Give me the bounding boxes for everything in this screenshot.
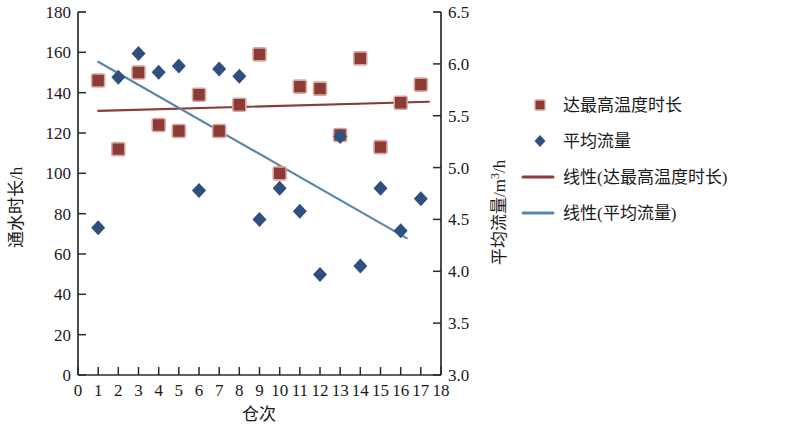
data-point-square [273,167,286,180]
data-point-square [314,82,327,95]
x-tick-label: 8 [235,381,244,400]
legend-label: 线性(平均流量) [563,204,676,223]
data-point-group [91,46,428,282]
y2-tick-label: 5.5 [448,107,469,126]
trendline [98,62,407,238]
legend-label: 线性(达最高温度时长) [563,168,727,187]
x-tick-label: 7 [215,381,224,400]
data-point-square [92,74,105,87]
left-axis [78,12,86,375]
y-tick-label: 100 [46,164,72,183]
x-tick-label: 2 [114,381,123,400]
x-tick-label: 12 [312,381,329,400]
x-tick-label: 13 [332,381,349,400]
data-point-square [233,98,246,111]
legend-label: 平均流量 [563,132,631,151]
y-tick-label: 40 [54,285,71,304]
y-tick-label: 180 [46,3,72,22]
data-point-square [213,124,226,137]
y-tick-label: 120 [46,124,72,143]
x-tick-label: 18 [433,381,450,400]
data-point-diamond [132,46,146,61]
data-point-square [132,66,145,79]
x-tick-label: 16 [392,381,409,400]
left-axis-tick-labels: 020406080100120140160180 [46,3,72,385]
x-tick-label: 17 [412,381,430,400]
data-point-diamond [293,204,307,219]
y-tick-label: 80 [54,205,71,224]
data-point-diamond [253,212,267,227]
data-point-square [374,141,387,154]
x-tick-label: 3 [134,381,143,400]
data-point-diamond [313,267,327,282]
x-axis-title: 仓次 [242,405,276,424]
data-point-square [112,143,125,156]
svg-text:平均流量/m3/h: 平均流量/m3/h [488,159,509,265]
right-axis [433,12,441,375]
x-tick-label: 5 [175,381,184,400]
y2-axis-title: 平均流量/m3/h [488,159,509,265]
legend-label: 达最高温度时长 [563,96,682,115]
y-tick-label: 20 [54,326,71,345]
chart-legend: 达最高温度时长平均流量线性(达最高温度时长)线性(平均流量) [523,96,727,223]
trendline [98,102,429,111]
x-axis-tick-labels: 0123456789101112131415161718 [74,381,450,400]
chart-figure: 020406080100120140160180 3.03.54.04.55.0… [0,0,797,433]
data-point-square [354,52,367,65]
x-axis-ticks [78,367,441,375]
right-axis-tick-labels: 3.03.54.04.55.05.56.06.5 [448,3,469,385]
y2-tick-label: 4.0 [448,262,469,281]
data-point-diamond [353,259,367,274]
x-tick-label: 9 [255,381,264,400]
x-tick-label: 11 [292,381,308,400]
data-point-diamond [152,65,166,80]
data-point-diamond [374,181,388,196]
y2-tick-label: 6.5 [448,3,469,22]
right-axis-ticks [433,64,441,323]
y-tick-label: 60 [54,245,71,264]
y2-tick-label: 4.5 [448,210,469,229]
y-tick-label: 0 [63,366,72,385]
data-point-square [152,118,165,131]
data-point-diamond [212,62,226,77]
data-point-square [394,96,407,109]
data-point-diamond [394,223,408,238]
data-point-diamond [192,183,206,198]
data-point-square [293,80,306,93]
x-tick-label: 6 [195,381,204,400]
data-point-diamond [232,69,246,84]
data-point-diamond [172,58,186,73]
legend-marker-square [535,100,545,110]
y2-tick-label: 5.0 [448,159,469,178]
left-axis-ticks [78,52,86,375]
x-tick-label: 15 [372,381,389,400]
x-tick-label: 4 [154,381,163,400]
y-tick-label: 160 [46,43,72,62]
scatter-chart: 020406080100120140160180 3.03.54.04.55.0… [0,0,797,433]
y2-tick-label: 3.0 [448,366,469,385]
legend-marker-diamond [535,135,546,147]
x-tick-label: 0 [74,381,83,400]
x-tick-label: 1 [94,381,103,400]
data-point-diamond [111,70,125,85]
data-point-square [172,124,185,137]
y-tick-label: 140 [46,84,72,103]
data-point-diamond [273,181,287,196]
data-point-square [414,78,427,91]
x-tick-label: 14 [352,381,370,400]
data-point-square [193,88,206,101]
data-point-diamond [414,191,428,206]
data-point-square [253,48,266,61]
y2-tick-label: 3.5 [448,314,469,333]
y2-tick-label: 6.0 [448,55,469,74]
x-tick-label: 10 [271,381,288,400]
data-point-diamond [91,220,105,235]
y-axis-title: 通水时长/h [7,166,26,248]
